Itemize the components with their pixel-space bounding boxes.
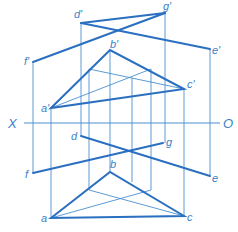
- top-view: [33, 136, 210, 218]
- label-b: b: [110, 158, 116, 170]
- label-b-prime: b': [110, 38, 119, 50]
- label-c: c: [187, 211, 193, 223]
- line-f-g: [33, 143, 163, 173]
- label-f-prime: f': [24, 55, 30, 67]
- triangle-abc-top: [51, 172, 184, 218]
- triangle-abc-front: [51, 50, 184, 108]
- label-g: g: [166, 136, 173, 148]
- label-e: e: [212, 172, 218, 184]
- label-f: f: [25, 168, 29, 180]
- label-c-prime: c': [187, 78, 196, 90]
- line-d-e: [81, 136, 210, 176]
- front-view: [33, 13, 210, 108]
- projection-diagram: X O d' g' e' f' b' c' a' d g e f b c a: [0, 0, 238, 232]
- axis-label-o: O: [223, 116, 233, 131]
- label-g-prime: g': [163, 0, 172, 12]
- axis-label-x: X: [7, 116, 18, 131]
- label-e-prime: e': [212, 44, 221, 56]
- label-d: d: [71, 130, 78, 142]
- label-a-prime: a': [41, 102, 50, 114]
- label-d-prime: d': [74, 8, 83, 20]
- label-a: a: [41, 212, 47, 224]
